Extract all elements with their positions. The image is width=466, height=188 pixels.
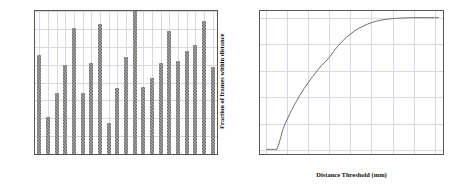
cdf-chart-x-axis-title: Distance Threshold (mm) <box>259 172 444 179</box>
cdf-chart-y-tick-mark <box>259 71 260 72</box>
bar-chart-x-tick-mark <box>213 154 214 155</box>
bar-chart-panel: Mean Error (mm) 0246810121416 CT1T2T3T4I… <box>0 0 233 188</box>
bar-chart-x-tick-mark <box>57 154 58 155</box>
bar-chart-x-tick-mark <box>204 154 205 155</box>
bar <box>89 63 93 154</box>
cdf-chart-plot-area: 0.00.20.40.60.81.0 01020304050607080 <box>259 10 444 155</box>
bar-chart-x-tick-label: M3 <box>126 154 132 155</box>
bar <box>72 28 76 154</box>
bar-chart-x-tick-mark <box>187 154 188 155</box>
bar-chart-y-tick-mark <box>34 11 35 12</box>
cdf-chart-x-tick-mark <box>350 154 351 155</box>
bar-chart-x-tick-mark <box>161 154 162 155</box>
bar <box>193 45 197 154</box>
bar-chart-x-tick-mark <box>39 154 40 155</box>
bar <box>107 123 111 154</box>
bar-chart-x-tick-label: M4 <box>135 154 141 155</box>
bar-chart-x-tick-label: R4 <box>169 154 175 155</box>
bar-chart-y-tick-mark <box>34 100 35 101</box>
cdf-chart-panel: Fraction of frames within distance Dista… <box>233 0 466 188</box>
bar <box>176 61 180 154</box>
bar-chart-x-tick-mark <box>91 154 92 155</box>
bar-chart-x-tick-mark <box>178 154 179 155</box>
bar <box>37 55 41 154</box>
bar-chart-y-tick-mark <box>34 154 35 155</box>
cdf-chart-x-tick-mark <box>414 154 415 155</box>
cdf-chart-x-tick-mark <box>266 154 267 155</box>
bar-chart-x-tick-mark <box>48 154 49 155</box>
bar <box>150 78 154 154</box>
bar <box>167 31 171 154</box>
figure-container: Mean Error (mm) 0246810121416 CT1T2T3T4I… <box>0 0 466 188</box>
bar <box>46 117 50 154</box>
cdf-chart-curve <box>260 11 443 154</box>
bar-chart-gridline <box>35 154 217 155</box>
bar-chart-x-tick-label: M2 <box>117 154 123 155</box>
cdf-chart-x-tick-mark <box>308 154 309 155</box>
cdf-chart-x-tick-mark <box>393 154 394 155</box>
bar <box>185 51 189 154</box>
cdf-chart-x-tick-mark <box>435 154 436 155</box>
bar-chart-x-tick-mark <box>135 154 136 155</box>
bar-chart-x-tick-mark <box>126 154 127 155</box>
bar <box>211 67 215 154</box>
bar-chart-y-tick-mark <box>34 118 35 119</box>
bar <box>133 11 137 154</box>
bar <box>55 93 59 154</box>
bar <box>115 88 119 154</box>
bar-chart-plot-area: 0246810121416 CT1T2T3T4I2I3I4M1M2M3M4R1R… <box>34 10 218 155</box>
bar <box>124 57 128 154</box>
bar-chart-x-tick-label: R2 <box>152 154 158 155</box>
cdf-chart-x-tick-mark <box>329 154 330 155</box>
cdf-chart-x-tick-mark <box>287 154 288 155</box>
bar-chart-x-tick-mark <box>100 154 101 155</box>
cdf-chart-y-tick-mark <box>259 97 260 98</box>
cdf-chart-y-axis-title: Fraction of frames within distance <box>219 16 226 146</box>
bar-chart-x-tick-label: R1 <box>143 154 149 155</box>
bar <box>159 63 163 154</box>
bar <box>63 65 67 154</box>
bar-chart-series <box>35 11 217 154</box>
bar-chart-y-tick-mark <box>34 136 35 137</box>
bar-chart-y-tick-mark <box>34 83 35 84</box>
bar-chart-x-tick-mark <box>65 154 66 155</box>
bar-chart-x-tick-label: R3 <box>161 154 167 155</box>
cdf-chart-y-tick-mark <box>259 124 260 125</box>
bar-chart-y-tick-mark <box>34 29 35 30</box>
bar-chart-x-tick-mark <box>74 154 75 155</box>
bar-chart-x-tick-mark <box>169 154 170 155</box>
bar-chart-x-tick-label: M1 <box>109 154 115 155</box>
bar <box>81 93 85 154</box>
bar-chart-x-tick-label: Mean <box>213 151 218 155</box>
bar-chart-x-tick-mark <box>143 154 144 155</box>
bar-chart-x-tick-mark <box>117 154 118 155</box>
bar-chart-x-tick-mark <box>109 154 110 155</box>
bar-chart-y-tick-mark <box>34 65 35 66</box>
bar <box>202 21 206 154</box>
cdf-chart-y-tick-mark <box>259 150 260 151</box>
cdf-chart-y-tick-mark <box>259 18 260 19</box>
bar <box>98 24 102 154</box>
bar-chart-x-tick-mark <box>152 154 153 155</box>
bar <box>141 87 145 154</box>
cdf-chart-y-tick-mark <box>259 44 260 45</box>
bar-chart-x-tick-mark <box>195 154 196 155</box>
bar-chart-x-tick-mark <box>83 154 84 155</box>
cdf-chart-x-tick-mark <box>371 154 372 155</box>
bar-chart-y-tick-mark <box>34 47 35 48</box>
